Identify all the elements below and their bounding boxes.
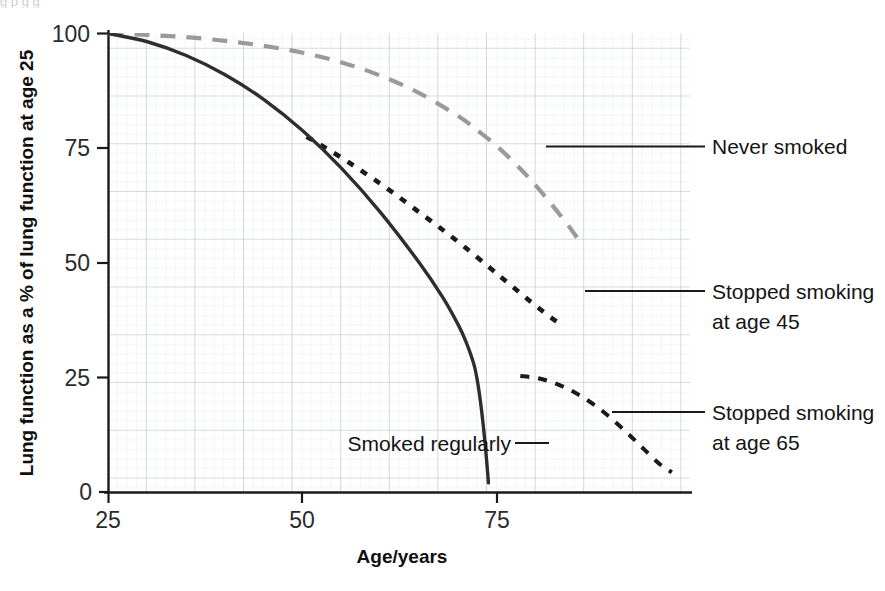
scan-artifact-bottom-text — [0, 578, 885, 591]
scan-artifact-top-text: g p g g — [0, 0, 885, 8]
plot-grid — [108, 33, 690, 492]
y-tick-label-50: 50 — [64, 250, 90, 276]
x-tick-label-75: 75 — [484, 507, 510, 533]
label-stopped-smoking-age-45-line2: at age 45 — [712, 310, 800, 333]
x-tick-label-25: 25 — [95, 507, 121, 533]
label-stopped-smoking-age-65-line1: Stopped smoking — [712, 401, 874, 424]
label-smoked-regularly: Smoked regularly — [348, 432, 512, 455]
x-tick-labels: 25 50 75 — [95, 507, 510, 533]
y-tick-label-25: 25 — [64, 365, 90, 391]
y-tick-label-0: 0 — [79, 479, 92, 505]
label-stopped-smoking-age-65-line2: at age 65 — [712, 431, 800, 454]
y-axis-ticks — [97, 34, 108, 493]
label-never-smoked: Never smoked — [712, 135, 847, 158]
y-tick-label-75: 75 — [64, 135, 90, 161]
y-axis-title: Lung function as a % of lung function at… — [16, 49, 37, 476]
y-tick-label-100: 100 — [52, 21, 90, 47]
x-axis-title: Age/years — [357, 546, 448, 567]
lung-function-chart-figure: g p g g — [0, 0, 885, 591]
label-stopped-smoking-age-45-line1: Stopped smoking — [712, 280, 874, 303]
chart-canvas: 100 75 50 25 0 25 50 75 Lung function as… — [0, 0, 885, 591]
x-tick-label-50: 50 — [289, 507, 315, 533]
y-tick-labels: 100 75 50 25 0 — [52, 21, 92, 505]
